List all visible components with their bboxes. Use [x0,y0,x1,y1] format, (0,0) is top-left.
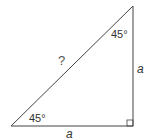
triangle-diagram: 45° 45° ? a a [0,0,147,139]
top-angle-label: 45° [111,28,128,40]
bottom-side-label: a [66,127,73,139]
right-angle-marker [127,120,133,126]
bottom-left-angle-label: 45° [29,112,46,124]
triangle-shape [11,6,133,126]
right-side-label: a [137,62,144,76]
hypotenuse-label: ? [58,53,65,68]
